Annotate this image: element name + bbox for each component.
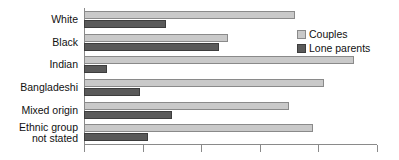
bar-couples-2 [84,56,354,64]
category-label-4: Mixed origin [0,105,78,116]
x-axis-tick-5 [377,145,378,152]
legend-item-0: Couples [297,28,397,40]
legend-swatch-lone-icon [297,44,306,53]
x-axis-tick-3 [260,145,261,152]
bar-lone-parents-0 [84,20,166,28]
category-label-1: Black [0,37,78,48]
bar-couples-0 [84,11,295,19]
bar-chart: WhiteBlackIndianBangladeshiMixed originE… [0,0,399,160]
legend-label-1: Lone parents [309,43,370,54]
category-label-0: White [0,14,78,25]
chart-legend: CouplesLone parents [297,28,397,56]
legend-item-1: Lone parents [297,42,397,54]
bar-lone-parents-4 [84,111,172,119]
bar-couples-4 [84,102,289,110]
x-axis-tick-2 [201,145,202,152]
category-label-2: Indian [0,59,78,70]
legend-swatch-couples-icon [297,30,306,39]
x-axis-tick-1 [143,145,144,152]
x-axis-tick-0 [84,145,85,152]
bar-couples-5 [84,124,313,132]
category-label-5: Ethnic group not stated [0,122,78,144]
x-axis-tick-4 [318,145,319,152]
bar-couples-1 [84,34,228,42]
category-label-3: Bangladeshi [0,82,78,93]
category-axis-labels: WhiteBlackIndianBangladeshiMixed originE… [0,8,78,144]
legend-label-0: Couples [309,29,348,40]
bar-lone-parents-3 [84,88,140,96]
x-axis-line [84,144,377,145]
bar-lone-parents-2 [84,65,107,73]
bar-lone-parents-1 [84,43,219,51]
bar-lone-parents-5 [84,133,148,141]
bar-couples-3 [84,79,324,87]
